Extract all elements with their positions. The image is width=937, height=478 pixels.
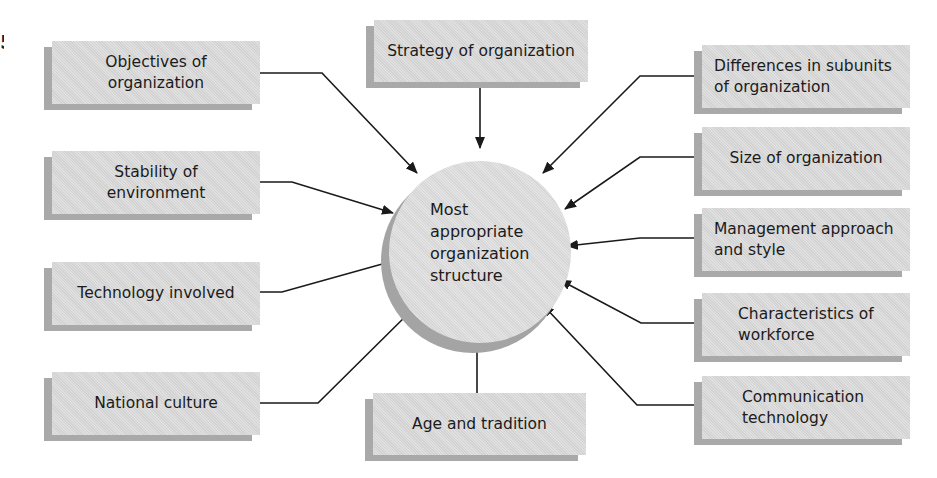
arrow-differences-subunits bbox=[543, 76, 700, 173]
factor-label: Strategy of organization bbox=[387, 41, 575, 62]
factor-label: Technology involved bbox=[77, 283, 234, 304]
arrow-size bbox=[565, 157, 700, 209]
factor-label: National culture bbox=[94, 393, 218, 414]
factor-label: Stability of environment bbox=[107, 162, 206, 204]
factor-label: Size of organization bbox=[730, 148, 883, 169]
center-label: Most appropriate organization structure bbox=[430, 199, 529, 287]
factor-label: Objectives of organization bbox=[105, 52, 206, 94]
arrow-management bbox=[567, 238, 700, 246]
arrow-workforce bbox=[560, 280, 700, 323]
factor-label: Communication technology bbox=[742, 387, 864, 429]
factor-label: Management approach and style bbox=[714, 219, 894, 261]
arrow-communication bbox=[543, 305, 700, 405]
arrow-stability bbox=[260, 182, 393, 213]
arrow-national-culture bbox=[260, 304, 418, 403]
arrow-objectives bbox=[260, 73, 417, 173]
factor-label: Differences in subunits of organization bbox=[714, 56, 892, 98]
factor-label: Characteristics of workforce bbox=[738, 304, 874, 346]
factor-label: Age and tradition bbox=[412, 414, 547, 435]
diagram-canvas: 5 Most appropriate organization struc bbox=[0, 0, 937, 478]
arrow-technology bbox=[260, 261, 393, 292]
